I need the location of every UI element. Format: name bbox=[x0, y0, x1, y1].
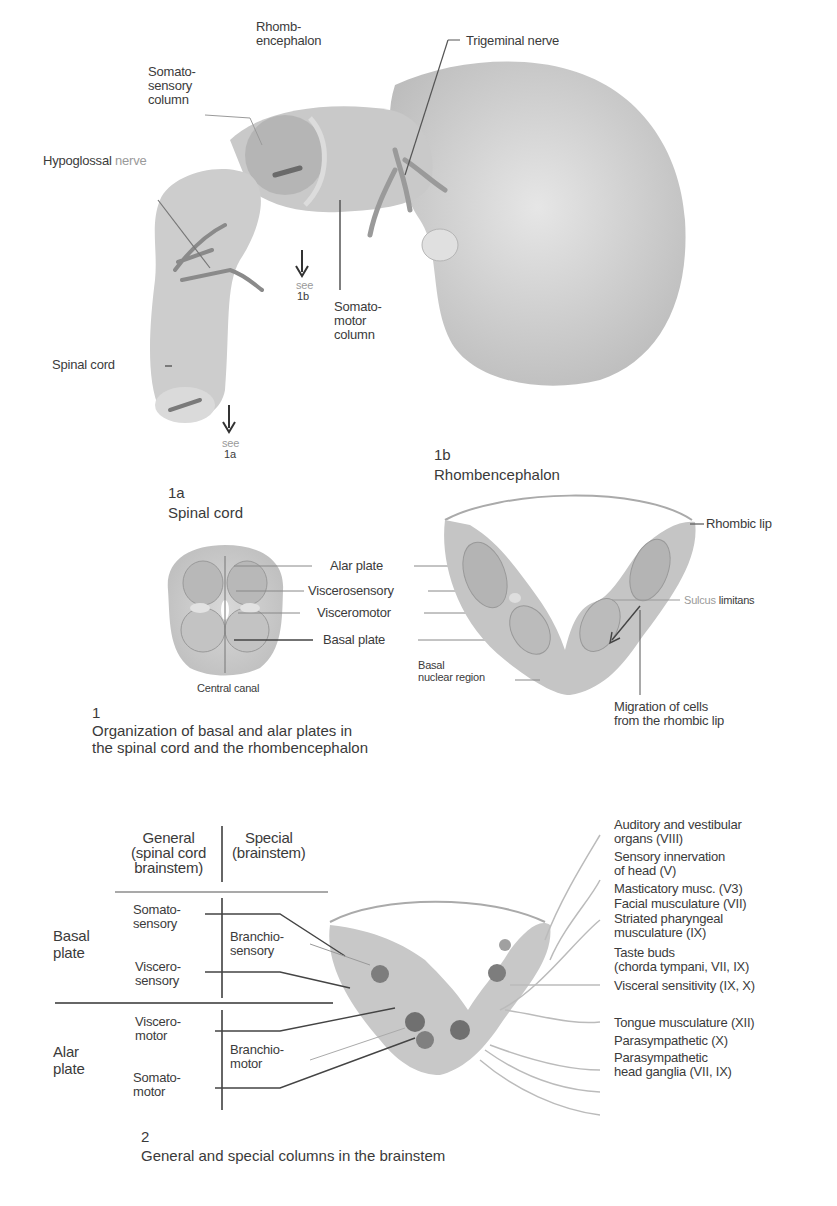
figure-1b-title: Rhombencephalon bbox=[434, 466, 560, 484]
label-tongue-musculature: Tongue musculature (XII) bbox=[614, 1016, 754, 1030]
sulcus-text: Sulcus bbox=[684, 594, 716, 606]
figure-1-caption: Organization of basal and alar plates in… bbox=[92, 722, 368, 756]
see-1a-ref: 1a bbox=[224, 448, 236, 460]
label-rhombencephalon: Rhomb- encephalon bbox=[256, 20, 321, 48]
figure-2-caption: General and special columns in the brain… bbox=[141, 1147, 445, 1164]
label-alar-plate: Alar plate bbox=[330, 559, 383, 573]
label-striated-pharyngeal: Striated pharyngeal musculature (IX) bbox=[614, 912, 723, 940]
label-visceral-sensitivity: Visceral sensitivity (IX, X) bbox=[614, 979, 755, 993]
label-auditory-vestibular: Auditory and vestibular organs (VIII) bbox=[614, 818, 742, 846]
header-special: Special (brainstem) bbox=[232, 830, 306, 860]
hypoglossal-text: Hypoglossal bbox=[43, 153, 112, 168]
cell-branchiomotor: Branchio- motor bbox=[230, 1043, 284, 1071]
label-basal-nuclear-region: Basal nuclear region bbox=[418, 659, 485, 683]
label-sensory-innervation-head: Sensory innervation of head (V) bbox=[614, 850, 725, 878]
label-somatomotor-column: Somato- motor column bbox=[334, 300, 382, 342]
label-basal-plate: Basal plate bbox=[323, 633, 385, 647]
brainstem-columns-cross-section bbox=[205, 835, 600, 1115]
label-somatosensory-column: Somato- sensory column bbox=[148, 65, 196, 107]
label-parasympathetic-head-ganglia: Parasympathetic head ganglia (VII, IX) bbox=[614, 1051, 732, 1079]
limitans-text: limitans bbox=[719, 594, 755, 606]
label-migration-of-cells: Migration of cells from the rhombic lip bbox=[614, 700, 724, 728]
label-sulcus-limitans: Sulcus limitans bbox=[684, 594, 754, 606]
label-visceromotor: Visceromotor bbox=[317, 606, 391, 620]
label-taste-buds: Taste buds (chorda tympani, VII, IX) bbox=[614, 946, 749, 974]
cell-branchiosensory: Branchio- sensory bbox=[230, 930, 284, 958]
see-1b-ref: 1b bbox=[297, 290, 309, 302]
figure-1b-number: 1b bbox=[434, 446, 451, 464]
cell-visceromotor: Viscero- motor bbox=[135, 1015, 181, 1043]
cell-somatosensory: Somato- sensory bbox=[133, 903, 181, 931]
figure-1a-number: 1a bbox=[168, 484, 185, 502]
label-hypoglossal-nerve: Hypoglossal nerve bbox=[43, 154, 147, 168]
cell-somatomotor: Somato- motor bbox=[133, 1071, 181, 1099]
row-label-alar-plate: Alar plate bbox=[53, 1043, 85, 1077]
figure-2-number: 2 bbox=[141, 1128, 149, 1145]
label-rhombic-lip: Rhombic lip bbox=[706, 517, 772, 531]
label-spinal-cord: Spinal cord bbox=[52, 358, 115, 372]
row-label-basal-plate: Basal plate bbox=[53, 927, 90, 961]
nerve-text: nerve bbox=[115, 153, 147, 168]
figure-1-number: 1 bbox=[92, 704, 100, 721]
figure-1a-title: Spinal cord bbox=[168, 504, 243, 522]
label-masticatory-musc: Masticatory musc. (V3) bbox=[614, 882, 743, 896]
label-trigeminal-nerve: Trigeminal nerve bbox=[466, 34, 559, 48]
embryo-brain-illustration bbox=[150, 40, 686, 432]
label-central-canal: Central canal bbox=[197, 682, 259, 694]
label-facial-musculature: Facial musculature (VII) bbox=[614, 897, 746, 911]
cell-viscerosensory: Viscero- sensory bbox=[135, 960, 181, 988]
label-parasympathetic-x: Parasympathetic (X) bbox=[614, 1034, 728, 1048]
label-viscerosensory: Viscerosensory bbox=[308, 584, 394, 598]
header-general: General (spinal cord brainstem) bbox=[131, 830, 206, 875]
